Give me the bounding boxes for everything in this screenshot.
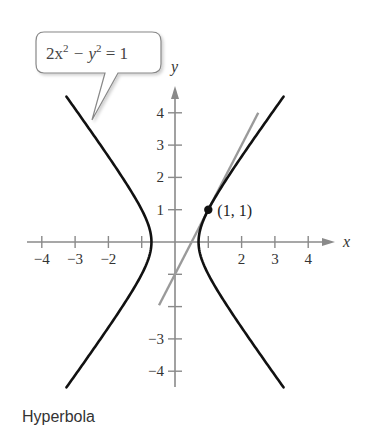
x-axis-label: x	[342, 233, 350, 250]
y-tick-label: 4	[157, 105, 165, 121]
x-axis-arrow-icon	[322, 238, 335, 246]
x-tick-label: −3	[67, 251, 83, 267]
y-tick-label: −4	[148, 363, 164, 379]
y-axis-label: y	[169, 58, 179, 76]
y-tick-label: −3	[148, 331, 164, 347]
y-tick-label: 3	[157, 137, 165, 153]
hyperbola-chart: −4−3−2234 x −4−31234 y (1, 1) 2x2 − y2 =…	[0, 0, 377, 431]
point-marker	[204, 206, 212, 214]
x-tick-label: 2	[238, 251, 246, 267]
y-axis-arrow-icon	[171, 86, 179, 99]
figure-caption: Hyperbola	[22, 408, 95, 426]
y-tick-label: 2	[157, 169, 165, 185]
point-label: (1, 1)	[217, 202, 252, 220]
callout-equation: 2x2 − y2 = 1	[46, 42, 128, 63]
x-tick-label: 3	[271, 251, 279, 267]
x-tick-label: −4	[34, 251, 50, 267]
x-ticks: −4−3−2234	[34, 236, 313, 267]
x-tick-label: 4	[304, 251, 312, 267]
x-tick-label: −2	[100, 251, 116, 267]
y-axis: −4−31234 y	[148, 58, 182, 387]
y-tick-label: 1	[157, 202, 165, 218]
